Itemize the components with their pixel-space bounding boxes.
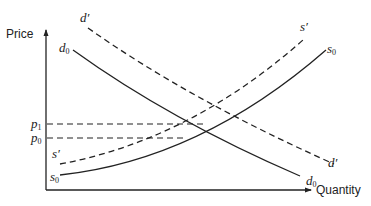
demand-curve-d-prime bbox=[88, 28, 334, 164]
supply-demand-diagram: Price Quantity p1 p0 d0 d0 d′ d′ s0 s0 s… bbox=[0, 0, 371, 206]
d-prime-bottom-label: d′ bbox=[328, 155, 338, 170]
d-prime-top-label: d′ bbox=[80, 10, 90, 25]
demand-curve-d0 bbox=[73, 50, 300, 176]
d0-top-label: d0 bbox=[59, 40, 70, 56]
y-axis-label: Price bbox=[6, 27, 34, 41]
d0-bottom-label: d0 bbox=[306, 173, 317, 189]
s0-bottom-label: s0 bbox=[50, 169, 59, 185]
s-prime-top-label: s′ bbox=[300, 19, 308, 34]
p0-label: p0 bbox=[30, 130, 42, 146]
x-axis-label: Quantity bbox=[316, 183, 361, 197]
s0-top-label: s0 bbox=[327, 41, 336, 57]
supply-curve-s-prime bbox=[60, 40, 303, 164]
s-prime-bottom-label: s′ bbox=[52, 146, 60, 161]
